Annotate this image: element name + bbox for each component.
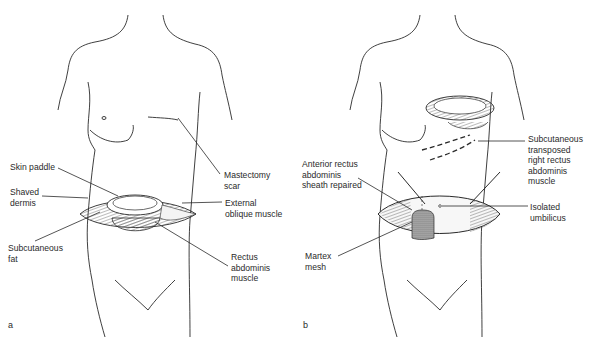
label-rectus-abdominis-muscle: Rectus abdominis muscle: [231, 252, 270, 284]
label-subcutaneous-transposed-muscle: Subcutaneous transposed right rectus abd…: [528, 134, 583, 187]
label-anterior-rectus-sheath: Anterior rectus abdominis sheath repaire…: [302, 159, 362, 191]
label-skin-paddle: Skin paddle: [10, 162, 55, 173]
transposed-flap-b: [426, 96, 494, 129]
label-mastectomy-scar: Mastectomy scar: [224, 170, 270, 191]
torso-a: [58, 15, 232, 337]
label-isolated-umbilicus: Isolated umbilicus: [530, 202, 566, 223]
illustration-canvas: [0, 0, 591, 337]
panel-letter-a: a: [8, 320, 13, 330]
panel-letter-b: b: [303, 320, 308, 330]
label-external-oblique-muscle: External oblique muscle: [225, 198, 282, 219]
leader-lines-a: [35, 118, 228, 266]
label-subcutaneous-fat: Subcutaneous fat: [8, 243, 63, 264]
label-martex-mesh: Martex mesh: [305, 251, 331, 272]
torso-b: [350, 15, 524, 337]
label-shaved-dermis: Shaved dermis: [10, 187, 39, 208]
